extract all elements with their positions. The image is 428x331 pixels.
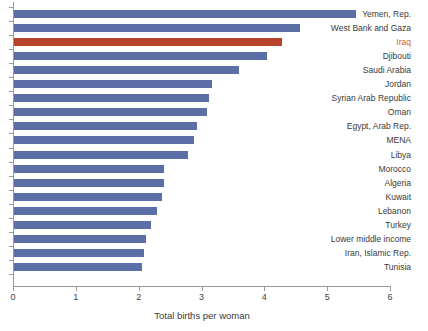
bar-row: West Bank and Gaza xyxy=(0,21,428,35)
bar xyxy=(14,207,157,215)
bar-row: Turkey xyxy=(0,218,428,232)
x-tick xyxy=(202,287,203,291)
bar-chart: 0123456 Yemen, Rep.West Bank and GazaIra… xyxy=(0,0,428,331)
bar xyxy=(14,151,188,159)
bar-row: Egypt, Arab Rep. xyxy=(0,119,428,133)
x-tick-label: 6 xyxy=(380,292,400,303)
bar-row: Kuwait xyxy=(0,190,428,204)
x-tick xyxy=(76,287,77,291)
bar-row: Yemen, Rep. xyxy=(0,7,428,21)
bar xyxy=(14,179,164,187)
category-label: Saudi Arabia xyxy=(363,63,411,77)
x-axis-title: Total births per woman xyxy=(0,310,404,321)
category-label: Yemen, Rep. xyxy=(362,7,411,21)
category-label: Jordan xyxy=(385,77,411,91)
x-tick-label: 0 xyxy=(3,292,23,303)
x-tick-label: 1 xyxy=(66,292,86,303)
x-tick xyxy=(327,287,328,291)
category-label: Iraq xyxy=(396,35,411,49)
bar-row: Iran, Islamic Rep. xyxy=(0,246,428,260)
x-tick xyxy=(390,287,391,291)
plot-area: 0123456 Yemen, Rep.West Bank and GazaIra… xyxy=(0,0,428,287)
bar xyxy=(14,249,144,257)
category-label: Turkey xyxy=(385,218,411,232)
x-tick-label: 2 xyxy=(129,292,149,303)
bar-row: Lower middle income xyxy=(0,232,428,246)
category-label: Algeria xyxy=(385,176,411,190)
bar-highlight xyxy=(14,38,282,46)
category-label: Kuwait xyxy=(385,190,411,204)
bar xyxy=(14,221,151,229)
category-label: Oman xyxy=(388,105,411,119)
category-label: Tunisia xyxy=(384,260,411,274)
bar-row: Morocco xyxy=(0,162,428,176)
x-tick-label: 3 xyxy=(192,292,212,303)
bar xyxy=(14,80,212,88)
bar-row: Iraq xyxy=(0,35,428,49)
bar xyxy=(14,235,146,243)
bar xyxy=(14,66,239,74)
bar-row: Jordan xyxy=(0,77,428,91)
bar-row: Saudi Arabia xyxy=(0,63,428,77)
category-label: Libya xyxy=(391,148,411,162)
category-label: Morocco xyxy=(378,162,411,176)
category-label: Syrian Arab Republic xyxy=(332,91,411,105)
category-label: Djibouti xyxy=(383,49,411,63)
x-tick xyxy=(264,287,265,291)
bar-row: Syrian Arab Republic xyxy=(0,91,428,105)
bar-row: Djibouti xyxy=(0,49,428,63)
bar-row: MENA xyxy=(0,133,428,147)
bar xyxy=(14,165,164,173)
x-tick-label: 4 xyxy=(254,292,274,303)
category-label: Iran, Islamic Rep. xyxy=(345,246,411,260)
bar xyxy=(14,94,209,102)
category-label: West Bank and Gaza xyxy=(331,21,411,35)
bar xyxy=(14,108,207,116)
bar xyxy=(14,122,197,130)
x-tick xyxy=(139,287,140,291)
bar-row: Algeria xyxy=(0,176,428,190)
category-label: Lebanon xyxy=(378,204,411,218)
category-label: MENA xyxy=(386,133,411,147)
bar-row: Lebanon xyxy=(0,204,428,218)
x-tick xyxy=(13,287,14,291)
y-tick xyxy=(9,274,13,275)
bar xyxy=(14,10,356,18)
bar xyxy=(14,52,267,60)
category-label: Lower middle income xyxy=(331,232,411,246)
bar xyxy=(14,193,162,201)
bar-row: Tunisia xyxy=(0,260,428,274)
bar-row: Libya xyxy=(0,148,428,162)
bar xyxy=(14,24,300,32)
category-label: Egypt, Arab Rep. xyxy=(347,119,411,133)
bar xyxy=(14,136,194,144)
x-tick-label: 5 xyxy=(317,292,337,303)
bar xyxy=(14,263,142,271)
bar-row: Oman xyxy=(0,105,428,119)
